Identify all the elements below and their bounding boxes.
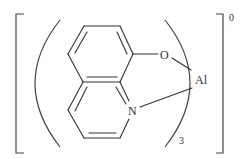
right-square-bracket [216, 14, 223, 153]
alq3-structure-diagram: O N Al 3 0 [0, 0, 247, 159]
n-al-bond [140, 88, 192, 107]
left-square-bracket [16, 14, 24, 153]
left-parenthesis [35, 20, 60, 147]
ligand-count-subscript: 3 [179, 135, 184, 146]
oxygen-atom-label: O [160, 48, 169, 62]
nitrogen-atom-label: N [128, 104, 137, 118]
quinoline-ring [68, 26, 133, 138]
right-parenthesis [165, 20, 190, 147]
aluminium-atom-label: Al [195, 73, 208, 87]
charge-superscript: 0 [229, 12, 234, 23]
